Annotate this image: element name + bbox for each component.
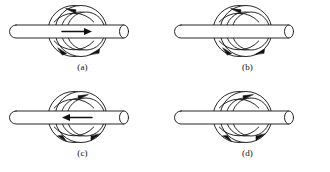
panel-b-diagram	[165, 0, 330, 86]
panel-b-label: (b)	[165, 62, 330, 72]
rod-end-cap	[120, 25, 129, 38]
rod-end-cap	[120, 111, 129, 124]
panel-b: (b)	[165, 0, 330, 86]
rod-end-cap	[285, 25, 294, 38]
panel-d-label: (d)	[165, 148, 330, 158]
panel-c-diagram	[0, 86, 165, 172]
rod-end-cap	[285, 111, 294, 124]
panel-c-label: (c)	[0, 148, 165, 158]
panel-c: (c)	[0, 86, 165, 172]
rod-body	[175, 25, 290, 38]
figure-root: (a) (b)	[0, 0, 330, 172]
panel-a-label: (a)	[0, 62, 165, 72]
panel-a-diagram	[0, 0, 165, 86]
panel-d-diagram	[165, 86, 330, 172]
panel-a: (a)	[0, 0, 165, 86]
rod-body	[175, 111, 290, 124]
panel-d: (d)	[165, 86, 330, 172]
